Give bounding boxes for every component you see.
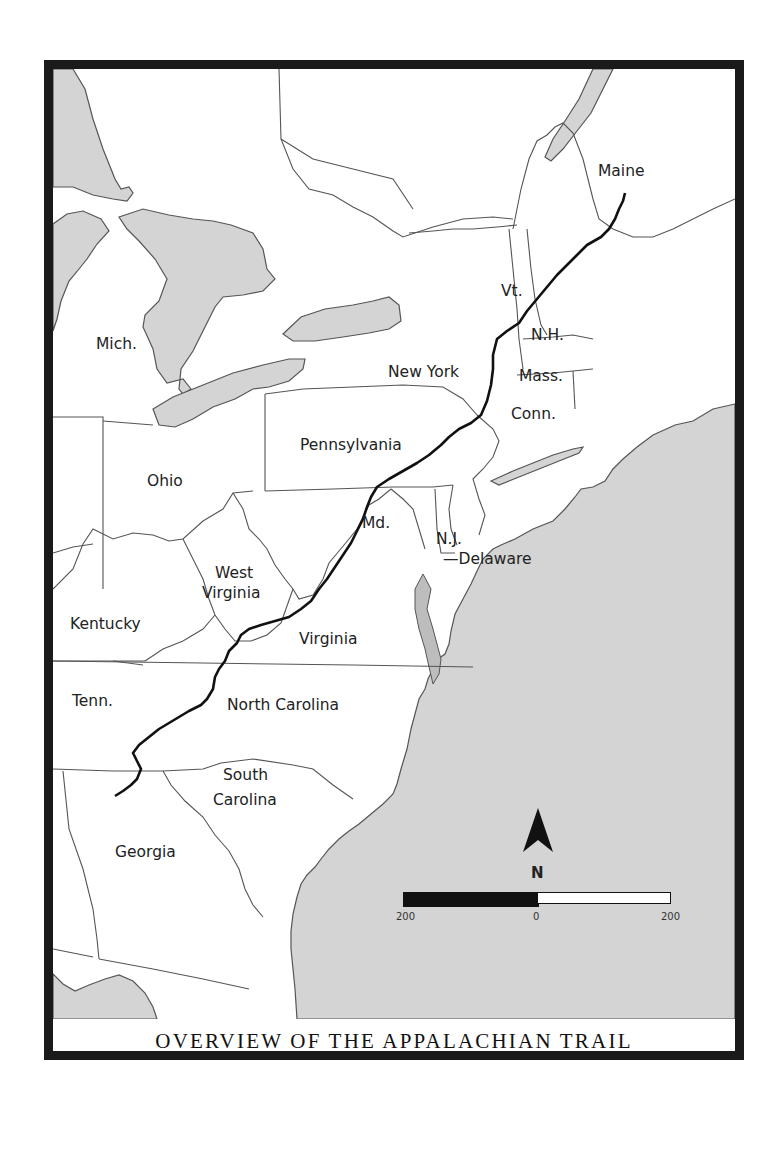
state-label-new-hampshire: N.H.: [531, 328, 564, 344]
state-label-georgia: Georgia: [115, 845, 176, 861]
state-label-michigan: Mich.: [96, 337, 137, 353]
scale-label-left: 200: [396, 911, 415, 922]
state-label-virginia: Virginia: [299, 632, 357, 648]
state-label-pennsylvania: Pennsylvania: [300, 438, 402, 454]
scale-bar: 200 0 200: [403, 892, 683, 932]
state-label-new-jersey: N.J.: [436, 532, 462, 548]
state-label-west-virginia-line2: Virginia: [202, 586, 260, 602]
delaware-text: Delaware: [459, 550, 532, 568]
state-label-connecticut: Conn.: [511, 407, 556, 423]
state-label-ohio: Ohio: [147, 474, 183, 490]
north-label: N: [531, 864, 544, 882]
scale-label-right: 200: [661, 911, 680, 922]
state-label-maine: Maine: [598, 164, 645, 180]
map-canvas: Maine Vt. N.H. New York Mass. Conn. Mich…: [53, 69, 735, 1019]
scale-bar-light-segment: [537, 892, 671, 904]
scale-label-middle: 0: [533, 911, 539, 922]
map-frame: Maine Vt. N.H. New York Mass. Conn. Mich…: [44, 60, 744, 1060]
state-label-new-york: New York: [388, 365, 459, 381]
state-label-maryland: Md.: [362, 516, 390, 532]
state-label-delaware: —Delaware: [443, 552, 532, 568]
state-label-south-carolina-line1: South: [223, 768, 268, 784]
scale-bar-dark-segment: [403, 892, 539, 907]
state-label-west-virginia-line1: West: [215, 566, 253, 582]
state-label-massachusetts: Mass.: [519, 369, 563, 385]
map-title: OVERVIEW OF THE APPALACHIAN TRAIL: [53, 1029, 735, 1054]
map-graphic: [53, 69, 735, 1019]
north-arrow-icon: [521, 806, 555, 854]
state-label-vermont: Vt.: [501, 284, 523, 300]
state-label-kentucky: Kentucky: [70, 617, 141, 633]
state-label-north-carolina: North Carolina: [227, 698, 339, 714]
state-label-south-carolina-line2: Carolina: [213, 793, 277, 809]
state-label-tennessee: Tenn.: [72, 694, 113, 710]
